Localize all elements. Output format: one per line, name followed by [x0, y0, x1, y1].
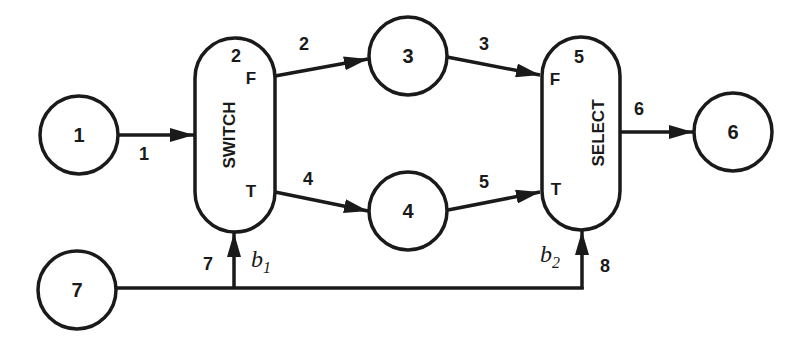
edge-4-label: 4 — [303, 169, 313, 189]
select-number: 5 — [574, 47, 584, 67]
edge-8-label: 8 — [600, 256, 610, 276]
switch-port-true: T — [246, 182, 257, 201]
select-control-label: b2 — [540, 241, 560, 271]
edge-5-label: 5 — [479, 172, 489, 192]
edge-6-label: 6 — [634, 99, 644, 119]
edge-2-label: 2 — [299, 34, 309, 54]
select-port-false: F — [550, 70, 560, 89]
switch-label: SWITCH — [220, 101, 239, 168]
edge-4[interactable]: 4 — [275, 169, 368, 211]
edge-5[interactable]: 5 — [448, 172, 540, 210]
edge-8[interactable]: 8 b2 — [540, 231, 610, 289]
switch-control-label: b1 — [251, 246, 271, 276]
diagram-svg: 1 7 3 4 6 SWITCH 2 F T SELECT 5 F T 1 — [0, 0, 810, 347]
node-4[interactable]: 4 — [369, 172, 447, 250]
edge-7-label: 7 — [203, 254, 213, 274]
select-port-true: T — [551, 180, 562, 199]
select-label: SELECT — [589, 99, 608, 167]
node-7-label: 7 — [71, 279, 82, 301]
dataflow-diagram: 1 7 3 4 6 SWITCH 2 F T SELECT 5 F T 1 — [0, 0, 810, 347]
node-3[interactable]: 3 — [369, 17, 447, 95]
node-1-label: 1 — [73, 124, 84, 146]
control-bus — [116, 287, 582, 288]
edge-3-label: 3 — [479, 34, 489, 54]
select-node[interactable]: SELECT 5 F T — [542, 37, 620, 230]
switch-port-false: F — [246, 69, 256, 88]
node-6-label: 6 — [727, 121, 738, 143]
node-6[interactable]: 6 — [694, 93, 772, 171]
edge-3[interactable]: 3 — [447, 34, 540, 75]
edge-1-label: 1 — [139, 144, 149, 164]
node-1[interactable]: 1 — [40, 96, 118, 174]
edge-7[interactable]: 7 b1 — [203, 233, 271, 288]
node-7[interactable]: 7 — [38, 251, 116, 329]
edge-2[interactable]: 2 — [275, 34, 368, 76]
node-3-label: 3 — [402, 45, 413, 67]
switch-node[interactable]: SWITCH 2 F T — [195, 38, 275, 232]
edge-1[interactable]: 1 — [118, 135, 194, 164]
edge-6[interactable]: 6 — [620, 99, 693, 132]
switch-number: 2 — [231, 46, 241, 66]
node-4-label: 4 — [402, 200, 414, 222]
